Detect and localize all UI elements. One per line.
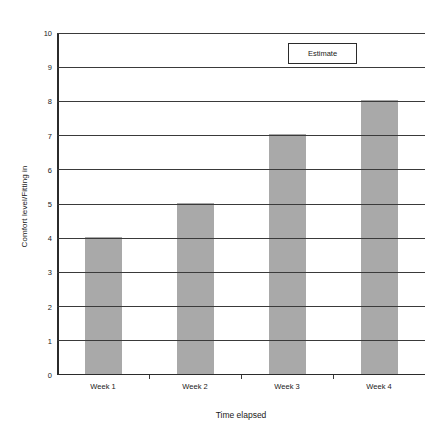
y-tick-label: 9 xyxy=(48,63,52,72)
y-tick-label: 10 xyxy=(44,29,52,38)
gridline xyxy=(57,67,425,68)
y-axis-line xyxy=(57,33,59,375)
y-tick-label: 1 xyxy=(48,336,52,345)
y-tick-label: 4 xyxy=(48,234,52,243)
x-tick-label: Week 4 xyxy=(366,382,391,391)
x-tick-label: Week 1 xyxy=(90,382,115,391)
y-tick-label: 3 xyxy=(48,268,52,277)
legend-entry-estimate: Estimate xyxy=(308,49,337,58)
plot-area: 012345678910 Week 1Week 2Week 3Week 4 xyxy=(57,33,425,375)
x-axis-tick xyxy=(333,375,334,379)
y-tick-label: 2 xyxy=(48,302,52,311)
y-tick-label: 5 xyxy=(48,200,52,209)
bar xyxy=(361,100,398,374)
x-axis-title: Time elapsed xyxy=(57,410,425,420)
y-axis-title: Comfort level/Fitting in xyxy=(20,107,29,307)
y-tick-label: 7 xyxy=(48,131,52,140)
x-tick-label: Week 2 xyxy=(182,382,207,391)
x-tick-label: Week 3 xyxy=(274,382,299,391)
bar xyxy=(177,203,214,374)
legend-box: Estimate xyxy=(288,43,357,64)
y-tick-label: 0 xyxy=(48,371,52,380)
x-axis-tick xyxy=(149,375,150,379)
bar-chart-figure: Comfort level/Fitting in 012345678910 We… xyxy=(0,0,434,438)
bar xyxy=(269,134,306,373)
y-tick-label: 6 xyxy=(48,165,52,174)
gridline xyxy=(57,33,425,34)
x-axis-tick xyxy=(241,375,242,379)
y-tick-label: 8 xyxy=(48,97,52,106)
bar xyxy=(85,237,122,374)
